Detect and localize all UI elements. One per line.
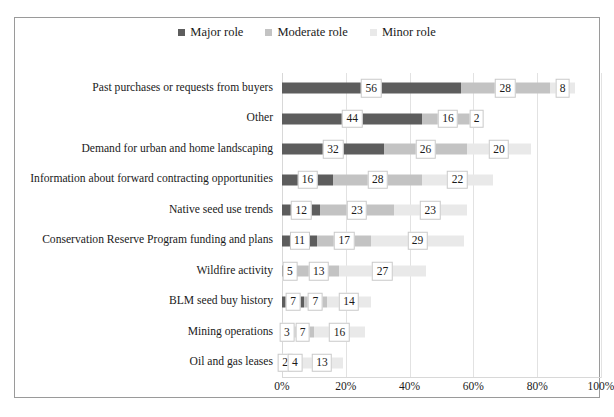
data-label: 23	[420, 201, 441, 220]
category-label-text: Wildfire activity	[197, 265, 273, 278]
x-tick-label: 20%	[335, 381, 356, 393]
bar-row: 7714	[282, 287, 601, 318]
bar-rows: 5628844162322620162822122323111729513277…	[282, 73, 601, 378]
data-label: 11	[289, 232, 309, 251]
legend-label: Minor role	[382, 26, 436, 39]
plot-area: 5628844162322620162822122323111729513277…	[282, 73, 601, 378]
data-label: 7	[286, 293, 301, 312]
data-label: 28	[495, 79, 516, 98]
data-label: 22	[447, 171, 468, 190]
legend-item-minor-role[interactable]: Minor role	[370, 26, 436, 39]
legend-label: Moderate role	[277, 26, 347, 39]
data-label: 7	[295, 323, 310, 342]
category-label: Conservation Reserve Program funding and…	[42, 226, 273, 257]
data-label: 16	[438, 110, 459, 129]
stacked-bar	[282, 296, 601, 307]
category-label-text: Past purchases or requests from buyers	[92, 82, 273, 95]
data-label: 12	[291, 201, 312, 220]
data-label: 4	[287, 354, 302, 373]
category-label-text: BLM seed buy history	[169, 295, 273, 308]
category-label-text: Oil and gas leases	[190, 356, 273, 369]
category-label: Past purchases or requests from buyers	[92, 73, 273, 104]
data-label: 56	[361, 79, 382, 98]
category-label: Information about forward contracting op…	[30, 165, 273, 196]
bar-row: 44162	[282, 104, 601, 135]
data-label: 23	[347, 201, 368, 220]
category-label: Other	[247, 104, 273, 135]
category-label: Wildfire activity	[197, 256, 273, 287]
category-label-text: Mining operations	[188, 326, 273, 339]
bar-row: 111729	[282, 226, 601, 257]
data-label: 14	[339, 293, 360, 312]
gridline	[601, 73, 602, 378]
data-label: 44	[342, 110, 363, 129]
data-label: 28	[367, 171, 388, 190]
stacked-bar	[282, 205, 601, 216]
data-label: 32	[323, 140, 344, 159]
legend-item-moderate-role[interactable]: Moderate role	[265, 26, 347, 39]
data-label: 26	[415, 140, 436, 159]
category-label: BLM seed buy history	[169, 287, 273, 318]
bar-row: 122323	[282, 195, 601, 226]
x-tick-label: 40%	[399, 381, 420, 393]
bar-row: 3716	[282, 317, 601, 348]
x-tick-label: 100%	[588, 381, 614, 393]
category-axis: Past purchases or requests from buyersOt…	[15, 73, 273, 378]
square-marker-icon	[178, 29, 185, 36]
data-label: 29	[407, 232, 428, 251]
data-label: 2	[469, 110, 484, 129]
category-label-text: Information about forward contracting op…	[30, 173, 273, 186]
category-label: Native seed use trends	[169, 195, 273, 226]
category-label: Demand for urban and home landscaping	[81, 134, 273, 165]
stacked-bar	[282, 174, 601, 185]
category-label: Oil and gas leases	[190, 348, 273, 379]
data-label: 20	[489, 140, 510, 159]
bar-row: 162822	[282, 165, 601, 196]
category-label-text: Other	[247, 112, 273, 125]
bar-row: 56288	[282, 73, 601, 104]
square-marker-icon	[370, 29, 377, 36]
data-label: 27	[372, 262, 393, 281]
category-label: Mining operations	[188, 317, 273, 348]
chart-legend: Major role Moderate role Minor role	[15, 26, 599, 39]
stacked-bar	[282, 266, 601, 277]
chart-frame: Major role Moderate role Minor role Past…	[14, 17, 600, 398]
legend-label: Major role	[190, 26, 243, 39]
square-marker-icon	[265, 29, 272, 36]
category-label-text: Conservation Reserve Program funding and…	[42, 234, 273, 247]
bar-row: 322620	[282, 134, 601, 165]
data-label: 7	[308, 293, 323, 312]
x-tick-label: 0%	[274, 381, 289, 393]
data-label: 13	[312, 354, 333, 373]
category-label-text: Native seed use trends	[169, 204, 273, 217]
stacked-bar	[282, 235, 601, 246]
data-label: 16	[297, 171, 318, 190]
x-tick-label: 60%	[463, 381, 484, 393]
x-axis-ticks: 0%20%40%60%80%100%	[282, 381, 601, 399]
data-label: 8	[555, 79, 570, 98]
data-label: 17	[334, 232, 355, 251]
bar-row: 2413	[282, 348, 601, 379]
data-label: 13	[308, 262, 329, 281]
data-label: 5	[283, 262, 298, 281]
bar-row: 51327	[282, 256, 601, 287]
data-label: 3	[279, 323, 294, 342]
data-label: 16	[329, 323, 350, 342]
stacked-bar	[282, 83, 601, 94]
category-label-text: Demand for urban and home landscaping	[81, 143, 273, 156]
x-tick-label: 80%	[527, 381, 548, 393]
legend-item-major-role[interactable]: Major role	[178, 26, 243, 39]
